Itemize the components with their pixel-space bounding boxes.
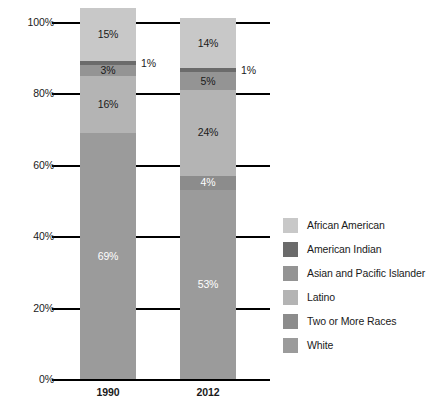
bar-segment-label: 69%: [98, 251, 119, 262]
x-axis-category-label: 1990: [80, 386, 136, 398]
bar-segment-label: 24%: [198, 127, 219, 138]
legend-swatch: [283, 242, 298, 257]
bar-segment-label: 5%: [201, 76, 216, 87]
legend-item[interactable]: Latino: [283, 285, 443, 309]
legend-swatch: [283, 338, 298, 353]
bar-segment[interactable]: [80, 61, 136, 65]
legend-label: American Indian: [307, 243, 381, 255]
chart-legend: African AmericanAmerican IndianAsian and…: [283, 213, 443, 357]
legend-label: Two or More Races: [307, 315, 396, 327]
bar-segment-label: 15%: [98, 29, 119, 40]
legend-swatch: [283, 266, 298, 281]
bar-segment[interactable]: 5%: [180, 72, 236, 90]
legend-item[interactable]: White: [283, 333, 443, 357]
bar-segment-label: 53%: [198, 279, 219, 290]
stacked-bar-chart: 0%20%40%60%80%100% 69%16%3%15%199053%4%2…: [0, 0, 447, 402]
bar-segment[interactable]: 14%: [180, 18, 236, 68]
legend-label: Asian and Pacific Islander: [307, 267, 425, 279]
legend-swatch: [283, 290, 298, 305]
plot-area: 0%20%40%60%80%100% 69%16%3%15%199053%4%2…: [62, 22, 262, 379]
legend-swatch: [283, 218, 298, 233]
legend-item[interactable]: American Indian: [283, 237, 443, 261]
bar-group[interactable]: 69%16%3%15%1990: [80, 22, 136, 379]
bar-segment-label: 16%: [98, 99, 119, 110]
bar-segment[interactable]: 69%: [80, 133, 136, 379]
bar-group[interactable]: 53%4%24%5%14%2012: [180, 22, 236, 379]
bar-segment[interactable]: 53%: [180, 190, 236, 379]
bar-series-container: 69%16%3%15%199053%4%24%5%14%2012: [62, 22, 262, 379]
y-axis-tick-label: 20%: [33, 302, 54, 314]
bar-segment[interactable]: 24%: [180, 90, 236, 176]
legend-label: African American: [307, 219, 385, 231]
y-axis-tick-label: 80%: [33, 87, 54, 99]
bar-segment-label: 3%: [101, 65, 116, 76]
bar-segment[interactable]: 16%: [80, 76, 136, 133]
bar-segment-callout-label: 1%: [141, 57, 156, 69]
y-axis-tick-label: 0%: [39, 373, 54, 385]
legend-label: Latino: [307, 291, 335, 303]
legend-item[interactable]: Asian and Pacific Islander: [283, 261, 443, 285]
bar-segment[interactable]: 15%: [80, 8, 136, 62]
y-axis-tick-label: 60%: [33, 159, 54, 171]
y-axis-tick-label: 100%: [28, 16, 54, 28]
bar-segment[interactable]: [180, 68, 236, 72]
legend-item[interactable]: African American: [283, 213, 443, 237]
legend-item[interactable]: Two or More Races: [283, 309, 443, 333]
x-axis-category-label: 2012: [180, 386, 236, 398]
bar-segment[interactable]: 3%: [80, 65, 136, 76]
bar-segment-callout-label: 1%: [241, 64, 256, 76]
bar-segment-label: 14%: [198, 38, 219, 49]
legend-swatch: [283, 314, 298, 329]
bar-segment[interactable]: 4%: [180, 176, 236, 190]
gridline: [52, 379, 270, 381]
legend-label: White: [307, 339, 333, 351]
bar-segment-label: 4%: [201, 177, 216, 188]
y-axis-tick-label: 40%: [33, 230, 54, 242]
